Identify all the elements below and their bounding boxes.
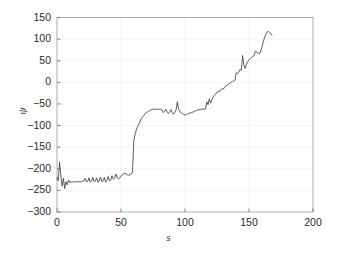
- x-axis-label: s: [0, 231, 337, 243]
- y-tick-label: −50: [11, 97, 51, 109]
- x-tick-label: 0: [37, 216, 77, 228]
- x-tick-label: 100: [165, 216, 205, 228]
- y-tick-label: 0: [11, 75, 51, 87]
- y-tick-label: 150: [11, 11, 51, 23]
- y-tick-label: −150: [11, 140, 51, 152]
- y-tick-label: −200: [11, 162, 51, 174]
- x-tick-label: 150: [229, 216, 269, 228]
- y-tick-label: −250: [11, 183, 51, 195]
- data-series-line: [57, 31, 272, 188]
- y-tick-label: 100: [11, 32, 51, 44]
- figure-container: ψ s −300−250−200−150−100−50050100150 050…: [0, 0, 337, 253]
- x-tick-label: 200: [293, 216, 333, 228]
- y-tick-label: −100: [11, 119, 51, 131]
- x-tick-label: 50: [101, 216, 141, 228]
- y-tick-label: 50: [11, 54, 51, 66]
